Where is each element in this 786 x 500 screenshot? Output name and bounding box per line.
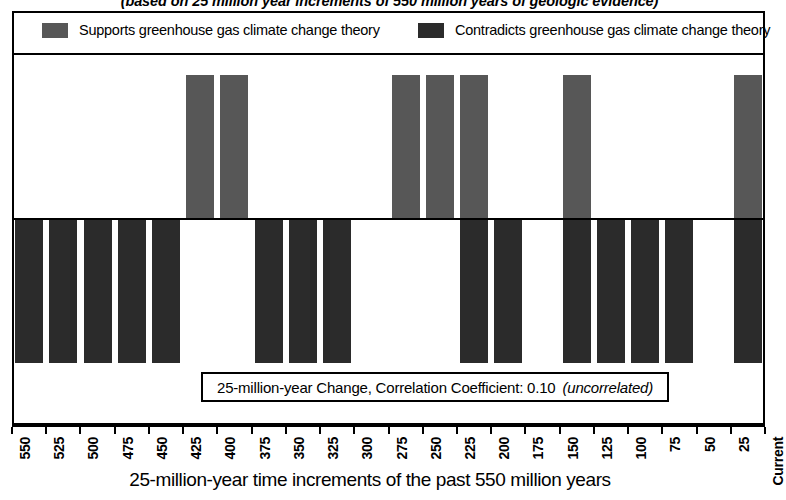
x-tick-10 [353, 427, 355, 434]
x-tick-13 [456, 427, 458, 434]
x-tick-label-75: 75 [667, 437, 683, 452]
x-tick-7 [251, 427, 253, 434]
x-tick-label-175: 175 [530, 437, 546, 459]
bar-contradicts-325 [323, 220, 351, 363]
bar-contradicts-500 [84, 220, 112, 363]
x-tick-8 [285, 427, 287, 434]
x-tick-label-300: 300 [359, 437, 375, 459]
x-tick-2 [79, 427, 81, 434]
x-tick-label-550: 550 [17, 437, 33, 459]
legend-swatch-contradicts [418, 23, 444, 38]
chart-subtitle: (based on 25 million year increments of … [0, 0, 779, 9]
x-tick-label-325: 325 [325, 437, 341, 459]
x-tick-14 [490, 427, 492, 434]
x-tick-5 [182, 427, 184, 434]
bar-supports-400 [220, 75, 248, 218]
bar-contradicts-100 [631, 220, 659, 363]
x-tick-17 [593, 427, 595, 434]
x-tick-3 [114, 427, 116, 434]
x-tick-label-current: Current [770, 437, 786, 485]
x-tick-label-50: 50 [702, 437, 718, 452]
x-tick-label-500: 500 [85, 437, 101, 459]
x-tick-4 [148, 427, 150, 434]
x-tick-1 [45, 427, 47, 434]
bar-contradicts-200 [494, 220, 522, 363]
x-tick-11 [388, 427, 390, 434]
x-tick-6 [216, 427, 218, 434]
bar-contradicts-525 [49, 220, 77, 363]
x-tick-label-450: 450 [154, 437, 170, 459]
x-tick-label-100: 100 [633, 437, 649, 459]
x-tick-12 [422, 427, 424, 434]
x-tick-label-25: 25 [736, 437, 752, 452]
bar-contradicts-25 [734, 220, 762, 363]
x-tick-label-125: 125 [599, 437, 615, 459]
bar-contradicts-350 [289, 220, 317, 363]
x-tick-label-400: 400 [222, 437, 238, 459]
bar-supports-275 [392, 75, 420, 218]
legend-swatch-supports [42, 23, 68, 38]
bar-contradicts-75 [665, 220, 693, 363]
bar-supports-250 [426, 75, 454, 218]
x-tick-label-200: 200 [496, 437, 512, 459]
x-tick-label-525: 525 [51, 437, 67, 459]
x-tick-label-225: 225 [462, 437, 478, 459]
x-tick-22 [764, 427, 766, 434]
correlation-annotation: 25-million-year Change, Correlation Coef… [201, 372, 669, 402]
x-axis-title: 25-million-year time increments of the p… [0, 469, 740, 491]
bar-contradicts-375 [255, 220, 283, 363]
bar-contradicts-550 [15, 220, 43, 363]
bar-supports-225 [460, 75, 488, 218]
bar-contradicts-475 [118, 220, 146, 363]
x-tick-label-150: 150 [565, 437, 581, 459]
x-tick-16 [559, 427, 561, 434]
x-tick-label-350: 350 [291, 437, 307, 459]
bar-contradicts-225 [460, 220, 488, 363]
bar-supports-25 [734, 75, 762, 218]
legend-item-contradicts: Contradicts greenhouse gas climate chang… [418, 22, 770, 38]
legend-item-supports: Supports greenhouse gas climate change t… [42, 22, 380, 38]
correlation-annotation-text: 25-million-year Change, Correlation Coef… [217, 379, 555, 396]
bar-contradicts-150 [563, 220, 591, 363]
plot-area [14, 13, 765, 425]
bar-supports-425 [186, 75, 214, 218]
bar-contradicts-450 [152, 220, 180, 363]
x-tick-15 [524, 427, 526, 434]
bar-contradicts-125 [597, 220, 625, 363]
legend-label-supports: Supports greenhouse gas climate change t… [79, 22, 380, 38]
x-tick-label-375: 375 [257, 437, 273, 459]
legend-label-contradicts: Contradicts greenhouse gas climate chang… [455, 22, 770, 38]
chart-legend: Supports greenhouse gas climate change t… [12, 11, 765, 55]
x-tick-21 [730, 427, 732, 434]
x-tick-19 [661, 427, 663, 434]
x-tick-20 [696, 427, 698, 434]
x-tick-9 [319, 427, 321, 434]
x-tick-label-475: 475 [120, 437, 136, 459]
x-tick-0 [11, 427, 13, 434]
bar-supports-150 [563, 75, 591, 218]
x-tick-label-425: 425 [188, 437, 204, 459]
x-tick-18 [627, 427, 629, 434]
x-tick-label-250: 250 [428, 437, 444, 459]
x-tick-label-275: 275 [394, 437, 410, 459]
correlation-annotation-note: (uncorrelated) [562, 379, 653, 396]
